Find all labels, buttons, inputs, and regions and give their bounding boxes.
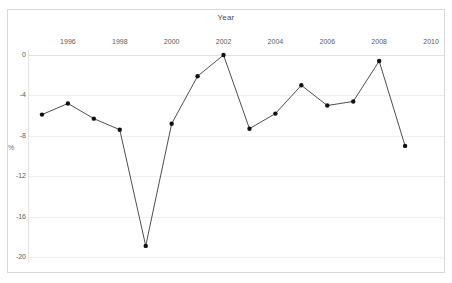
data-point-2001 <box>195 74 199 78</box>
data-point-2006 <box>325 103 329 107</box>
data-point-1999 <box>144 244 148 248</box>
data-point-2003 <box>247 127 251 131</box>
data-point-2007 <box>351 99 355 103</box>
data-point-2005 <box>299 83 303 87</box>
chart-container: Year % 0-4-8-12-16-20 199619982000200220… <box>0 0 452 283</box>
data-point-1998 <box>118 128 122 132</box>
series-line <box>42 55 405 246</box>
data-point-2004 <box>273 111 277 115</box>
data-point-2002 <box>221 53 225 57</box>
data-point-1997 <box>92 116 96 120</box>
data-point-1996 <box>66 101 70 105</box>
line-series-layer <box>0 0 452 283</box>
data-point-2008 <box>377 59 381 63</box>
data-point-2009 <box>403 144 407 148</box>
data-point-1995 <box>40 112 44 116</box>
data-point-2000 <box>169 121 173 125</box>
